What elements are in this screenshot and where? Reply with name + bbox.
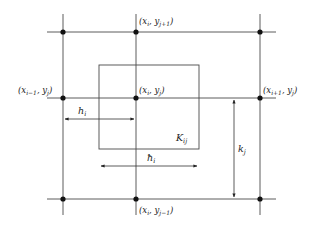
grid-diagram: (xi, yj+1) (xi−1, yj) (xi, yj) (xi+1, yj… [0, 0, 314, 230]
node-mid-center [133, 95, 138, 100]
h-dimension-label: hi [78, 105, 86, 118]
label-mid-left: (xi−1, yj) [18, 85, 52, 97]
node-mid-right [257, 95, 262, 100]
label-mid-right: (xi+1, yj) [263, 85, 297, 97]
node-mid-left [60, 95, 65, 100]
cell-label-k-ij: Kij [175, 132, 187, 145]
label-bottom-center: (xi, yj−1) [139, 205, 173, 217]
label-mid-center: (xi, yj) [139, 85, 164, 97]
node-top-center [133, 29, 138, 34]
label-top-center: (xi, yj+1) [139, 16, 173, 28]
node-top-right [257, 29, 262, 34]
node-top-left [60, 29, 65, 34]
node-bottom-right [257, 196, 262, 201]
node-bottom-center [133, 196, 138, 201]
node-bottom-left [60, 196, 65, 201]
k-dimension-label: kj [238, 143, 246, 156]
hbar-dimension-label: ħi [147, 152, 155, 165]
grid-nodes [60, 29, 262, 201]
